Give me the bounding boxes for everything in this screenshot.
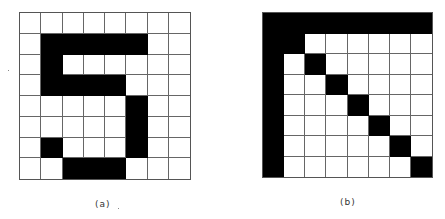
empty-cell xyxy=(148,75,169,96)
empty-cell xyxy=(326,116,347,137)
empty-cell xyxy=(390,34,411,55)
empty-cell xyxy=(326,136,347,157)
empty-cell xyxy=(348,75,369,96)
empty-cell xyxy=(105,138,126,159)
empty-cell xyxy=(126,158,147,179)
empty-cell xyxy=(348,116,369,137)
filled-cell xyxy=(263,75,284,96)
filled-cell xyxy=(63,158,84,179)
empty-cell xyxy=(348,54,369,75)
empty-cell xyxy=(63,13,84,34)
filled-cell xyxy=(263,116,284,137)
empty-cell xyxy=(148,117,169,138)
filled-cell xyxy=(263,157,284,178)
filled-cell xyxy=(41,34,62,55)
empty-cell xyxy=(41,117,62,138)
empty-cell xyxy=(305,157,326,178)
empty-cell xyxy=(305,116,326,137)
filled-cell xyxy=(411,13,432,34)
empty-cell xyxy=(390,116,411,137)
filled-cell xyxy=(305,54,326,75)
empty-cell xyxy=(305,95,326,116)
empty-cell xyxy=(126,13,147,34)
empty-cell xyxy=(169,117,190,138)
filled-cell xyxy=(126,138,147,159)
empty-cell xyxy=(63,117,84,138)
empty-cell xyxy=(148,13,169,34)
filled-cell xyxy=(369,13,390,34)
empty-cell xyxy=(305,75,326,96)
empty-cell xyxy=(326,95,347,116)
empty-cell xyxy=(411,116,432,137)
empty-cell xyxy=(326,157,347,178)
empty-cell xyxy=(84,55,105,76)
empty-cell xyxy=(105,96,126,117)
filled-cell xyxy=(263,34,284,55)
empty-cell xyxy=(105,55,126,76)
filled-cell xyxy=(369,116,390,137)
empty-cell xyxy=(126,75,147,96)
filled-cell xyxy=(284,34,305,55)
filled-cell xyxy=(263,95,284,116)
empty-cell xyxy=(348,34,369,55)
empty-cell xyxy=(369,95,390,116)
empty-cell xyxy=(411,136,432,157)
filled-cell xyxy=(263,54,284,75)
empty-cell xyxy=(284,95,305,116)
empty-cell xyxy=(390,75,411,96)
filled-cell xyxy=(305,13,326,34)
empty-cell xyxy=(169,138,190,159)
filled-cell xyxy=(84,75,105,96)
empty-cell xyxy=(169,34,190,55)
empty-cell xyxy=(390,157,411,178)
empty-cell xyxy=(369,75,390,96)
filled-cell xyxy=(126,117,147,138)
empty-cell xyxy=(20,55,41,76)
empty-cell xyxy=(305,136,326,157)
empty-cell xyxy=(41,96,62,117)
empty-cell xyxy=(105,117,126,138)
pixel-grid-b xyxy=(262,12,433,178)
empty-cell xyxy=(84,138,105,159)
empty-cell xyxy=(169,158,190,179)
empty-cell xyxy=(126,55,147,76)
empty-cell xyxy=(63,138,84,159)
filled-cell xyxy=(348,13,369,34)
filled-cell xyxy=(284,13,305,34)
filled-cell xyxy=(41,55,62,76)
filled-cell xyxy=(84,158,105,179)
filled-cell xyxy=(263,136,284,157)
empty-cell xyxy=(20,138,41,159)
empty-cell xyxy=(63,96,84,117)
empty-cell xyxy=(84,117,105,138)
empty-cell xyxy=(148,96,169,117)
filled-cell xyxy=(326,13,347,34)
empty-cell xyxy=(369,54,390,75)
empty-cell xyxy=(348,136,369,157)
filled-cell xyxy=(105,158,126,179)
empty-cell xyxy=(169,96,190,117)
empty-cell xyxy=(390,54,411,75)
pixel-grid-a xyxy=(19,12,191,180)
empty-cell xyxy=(84,96,105,117)
empty-cell xyxy=(148,158,169,179)
empty-cell xyxy=(20,158,41,179)
empty-cell xyxy=(390,95,411,116)
filled-cell xyxy=(348,95,369,116)
empty-cell xyxy=(20,13,41,34)
filled-cell xyxy=(411,157,432,178)
empty-cell xyxy=(369,34,390,55)
filled-cell xyxy=(326,75,347,96)
empty-cell xyxy=(411,34,432,55)
filled-cell xyxy=(63,75,84,96)
filled-cell xyxy=(390,13,411,34)
empty-cell xyxy=(411,54,432,75)
filled-cell xyxy=(105,75,126,96)
empty-cell xyxy=(20,117,41,138)
empty-cell xyxy=(20,34,41,55)
filled-cell xyxy=(390,136,411,157)
empty-cell xyxy=(20,75,41,96)
empty-cell xyxy=(369,157,390,178)
empty-cell xyxy=(326,54,347,75)
empty-cell xyxy=(169,55,190,76)
